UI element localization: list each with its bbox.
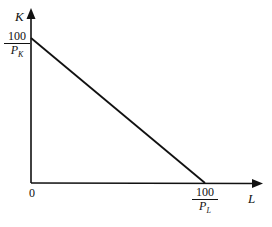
x-axis-label: L — [248, 191, 255, 207]
y-intercept-numerator: 100 — [4, 30, 30, 44]
y-intercept-label: 100 PK — [4, 30, 30, 61]
x-intercept-denominator: PL — [192, 200, 218, 217]
origin-label: 0 — [29, 186, 35, 201]
x-axis-arrow-icon — [252, 179, 263, 188]
y-intercept-denominator: PK — [4, 44, 30, 61]
x-intercept-label: 100 PL — [192, 186, 218, 217]
isocost-line — [31, 38, 205, 183]
x-axis — [31, 183, 254, 184]
y-axis-arrow-icon — [27, 8, 36, 19]
isocost-diagram — [0, 0, 272, 227]
x-intercept-numerator: 100 — [192, 186, 218, 200]
y-axis-label: K — [15, 9, 24, 25]
